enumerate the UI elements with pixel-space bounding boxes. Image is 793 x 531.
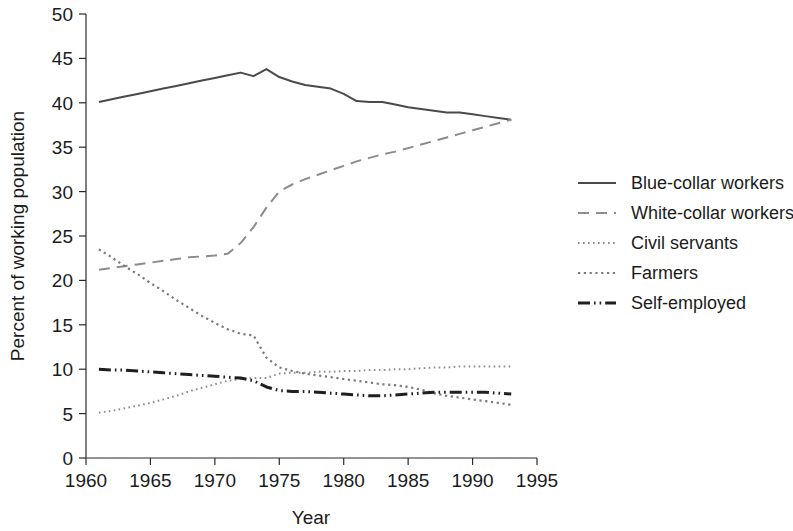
legend-label-blue-collar-workers: Blue-collar workers [631, 173, 784, 193]
x-tick-label: 1975 [258, 470, 300, 491]
x-tick-label: 1995 [516, 470, 558, 491]
legend-label-self-employed: Self-employed [631, 293, 746, 313]
y-tick-label: 10 [52, 359, 73, 380]
y-tick-label: 0 [62, 448, 73, 469]
series-line-farmers [99, 249, 511, 404]
x-tick-label: 1970 [194, 470, 236, 491]
y-tick-label: 5 [62, 404, 73, 425]
y-tick-label: 50 [52, 4, 73, 25]
chart-figure: 05101520253035404550 1960196519701975198… [0, 0, 793, 531]
y-tick-label: 45 [52, 48, 73, 69]
x-tick-label: 1960 [65, 470, 107, 491]
legend-label-civil-servants: Civil servants [631, 233, 738, 253]
x-axis: 19601965197019751980198519901995 [65, 458, 558, 491]
x-axis-title: Year [292, 507, 331, 528]
y-axis: 05101520253035404550 [52, 4, 86, 469]
x-tick-label: 1980 [323, 470, 365, 491]
x-tick-label: 1985 [387, 470, 429, 491]
y-axis-title: Percent of working population [7, 111, 28, 361]
x-tick-label: 1965 [129, 470, 171, 491]
y-tick-label: 30 [52, 182, 73, 203]
legend-label-farmers: Farmers [631, 263, 698, 283]
y-tick-label: 15 [52, 315, 73, 336]
legend-label-white-collar-workers: White-collar workers [631, 203, 793, 223]
y-tick-label: 35 [52, 137, 73, 158]
y-tick-label: 25 [52, 226, 73, 247]
line-chart-svg: 05101520253035404550 1960196519701975198… [0, 0, 793, 531]
x-tick-label: 1990 [451, 470, 493, 491]
legend: Blue-collar workersWhite-collar workersC… [578, 173, 793, 313]
series-line-blue-collar-workers [99, 69, 511, 120]
series-line-white-collar-workers [99, 120, 511, 270]
y-tick-label: 20 [52, 270, 73, 291]
y-tick-label: 40 [52, 93, 73, 114]
series-lines [99, 69, 511, 413]
plot-area: 05101520253035404550 1960196519701975198… [7, 4, 793, 528]
